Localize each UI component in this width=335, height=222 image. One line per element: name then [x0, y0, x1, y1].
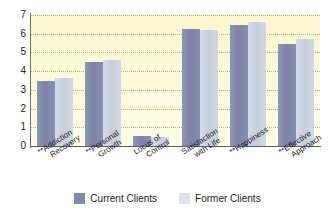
y-tick-label: 6 — [12, 29, 26, 39]
legend-label: Former Clients — [195, 193, 261, 204]
bar-group — [79, 15, 127, 146]
bar — [182, 29, 200, 146]
plot-area — [31, 15, 320, 146]
y-tick-label: 4 — [12, 66, 26, 76]
legend-item[interactable]: Current Clients — [74, 193, 157, 204]
x-axis-labels: **AddictionRecovery**PersonalGrowthLocus… — [31, 147, 320, 192]
y-tick-label: 2 — [12, 104, 26, 114]
legend-label: Current Clients — [90, 193, 157, 204]
bar-groups — [31, 15, 320, 146]
y-axis-ticks: 01234567 — [10, 15, 28, 146]
legend-swatch-icon — [74, 193, 85, 204]
bar-group — [176, 15, 224, 146]
legend-swatch-icon — [179, 193, 190, 204]
bar-group — [127, 15, 175, 146]
chart-legend: Current ClientsFormer Clients — [0, 193, 335, 204]
bar — [85, 62, 103, 146]
bar — [278, 44, 296, 146]
bar — [37, 81, 55, 147]
y-tick-label: 1 — [12, 122, 26, 132]
bar-chart: 01234567 **AddictionRecovery**PersonalGr… — [0, 0, 335, 222]
bar — [230, 25, 248, 146]
legend-item[interactable]: Former Clients — [179, 193, 261, 204]
y-tick-label: 3 — [12, 85, 26, 95]
y-tick-label: 7 — [12, 10, 26, 20]
y-tick-label: 5 — [12, 47, 26, 57]
y-tick-label: 0 — [12, 141, 26, 151]
